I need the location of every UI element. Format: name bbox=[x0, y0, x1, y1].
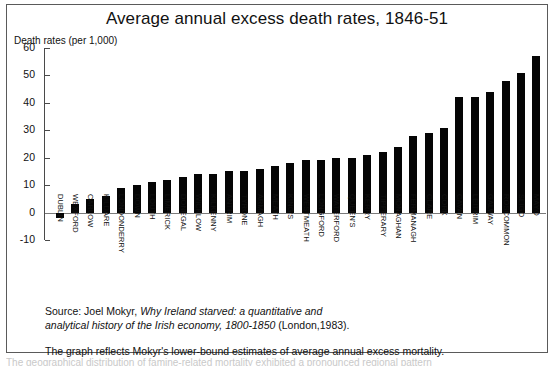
category-label: LOUTH bbox=[148, 194, 156, 220]
tick-label: 10 bbox=[23, 178, 35, 190]
tick-mark bbox=[45, 103, 50, 104]
category-label: ANTRIM bbox=[225, 194, 233, 223]
tick-mark bbox=[45, 130, 50, 131]
category-label: MAYO bbox=[532, 194, 540, 216]
category-label: ARMAGH bbox=[256, 194, 264, 227]
category-label: WEXFORD bbox=[71, 194, 79, 233]
source-publisher: (London,1983). bbox=[275, 319, 349, 331]
tick-mark bbox=[45, 240, 50, 241]
category-label: ROSCOMMON bbox=[502, 194, 510, 246]
category-label: LONDONDERRY bbox=[117, 194, 125, 253]
category-label: LONGFORD bbox=[317, 194, 325, 237]
tick-label: 0 bbox=[29, 206, 35, 218]
category-label: WESTMEATH bbox=[302, 194, 310, 242]
tick-label: 50 bbox=[23, 68, 35, 80]
category-label: DUBLIN bbox=[56, 194, 64, 222]
category-label: KILDARE bbox=[102, 194, 110, 227]
category-label: FERMANAGH bbox=[409, 194, 417, 243]
source-line-2: analytical history of the Irish economy,… bbox=[45, 319, 350, 333]
category-label: SLIGO bbox=[517, 194, 525, 217]
source-note: Source: Joel Mokyr, Why Ireland starved:… bbox=[45, 305, 350, 332]
tick-label: 40 bbox=[23, 96, 35, 108]
source-line-1: Source: Joel Mokyr, Why Ireland starved:… bbox=[45, 305, 350, 319]
clipped-body-text: The geographical distribution of famine-… bbox=[6, 357, 546, 366]
category-label: CLARE bbox=[425, 194, 433, 219]
category-label: WATERFORD bbox=[332, 194, 340, 242]
category-label: QUEEN'S bbox=[348, 194, 356, 228]
category-label: MEATH bbox=[271, 194, 279, 220]
category-label: WICKLOW bbox=[194, 194, 202, 231]
category-label: LEITRIM bbox=[471, 194, 479, 224]
category-label: KILKENNY bbox=[209, 194, 217, 232]
category-label: TIPPERARY bbox=[379, 194, 387, 237]
category-label: CARLOW bbox=[86, 194, 94, 227]
category-label: GALWAY bbox=[486, 194, 494, 225]
source-caption: The graph reflects Mokyr's lower-bound e… bbox=[45, 345, 444, 357]
tick-label: 30 bbox=[23, 123, 35, 135]
tick-label: 20 bbox=[23, 151, 35, 163]
y-axis-line bbox=[44, 48, 45, 240]
bar[interactable] bbox=[502, 81, 510, 213]
bar[interactable] bbox=[532, 56, 540, 212]
category-label: KING'S bbox=[286, 194, 294, 219]
chart-title: Average annual excess death rates, 1846-… bbox=[7, 9, 547, 29]
tick-mark bbox=[45, 48, 50, 49]
source-title-part-1: Why Ireland starved: a quantitative and bbox=[140, 305, 322, 317]
category-label: TYRONE bbox=[240, 194, 248, 226]
category-label: CORK bbox=[440, 194, 448, 216]
bar[interactable] bbox=[517, 73, 525, 213]
tick-label: 60 bbox=[23, 41, 35, 53]
category-label: KERRY bbox=[363, 194, 371, 220]
tick-mark bbox=[45, 158, 50, 159]
category-label: DONEGAL bbox=[179, 194, 187, 231]
source-prefix: Source: Joel Mokyr, bbox=[45, 305, 140, 317]
tick-label: -10 bbox=[20, 233, 35, 245]
tick-mark bbox=[45, 75, 50, 76]
category-label: MONAGHAN bbox=[394, 194, 402, 239]
category-labels: DUBLINWEXFORDCARLOWKILDARELONDONDERRYDOW… bbox=[52, 194, 544, 250]
tick-mark bbox=[45, 185, 50, 186]
category-label: LIMERICK bbox=[163, 194, 171, 230]
source-title-part-2: analytical history of the Irish economy,… bbox=[45, 319, 275, 331]
category-label: DOWN bbox=[133, 194, 141, 218]
category-label: CAVAN bbox=[455, 194, 463, 219]
